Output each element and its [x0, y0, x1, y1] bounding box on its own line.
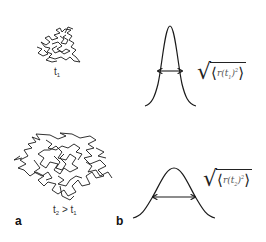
panel-label-b: b [116, 214, 123, 228]
time-label-t2-gt-t1: t2 > t1 [53, 204, 77, 216]
gaussian-curve-narrow [145, 26, 196, 106]
time-label-t1: t1 [54, 66, 60, 78]
panel-label-a: a [15, 214, 22, 228]
rms-displacement-formula-t2: √ ⟨ r(t2)2 ⟩ [203, 168, 252, 190]
rms-displacement-formula-t1: √ ⟨ r(t1)2 ⟩ [197, 61, 246, 83]
random-walk-small [37, 27, 80, 62]
square-root-icon: √ [197, 61, 211, 83]
square-root-icon: √ [203, 168, 217, 190]
diffusion-figure [0, 0, 266, 242]
random-walk-large [14, 133, 112, 200]
